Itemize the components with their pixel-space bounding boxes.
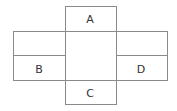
label-d: D bbox=[131, 64, 151, 76]
right-divider bbox=[116, 55, 168, 56]
label-b: B bbox=[29, 64, 49, 76]
label-c: C bbox=[80, 88, 100, 100]
center-divider-top bbox=[65, 31, 117, 32]
center-divider-bottom bbox=[65, 80, 117, 81]
label-a: A bbox=[80, 14, 100, 26]
left-divider bbox=[13, 55, 66, 56]
